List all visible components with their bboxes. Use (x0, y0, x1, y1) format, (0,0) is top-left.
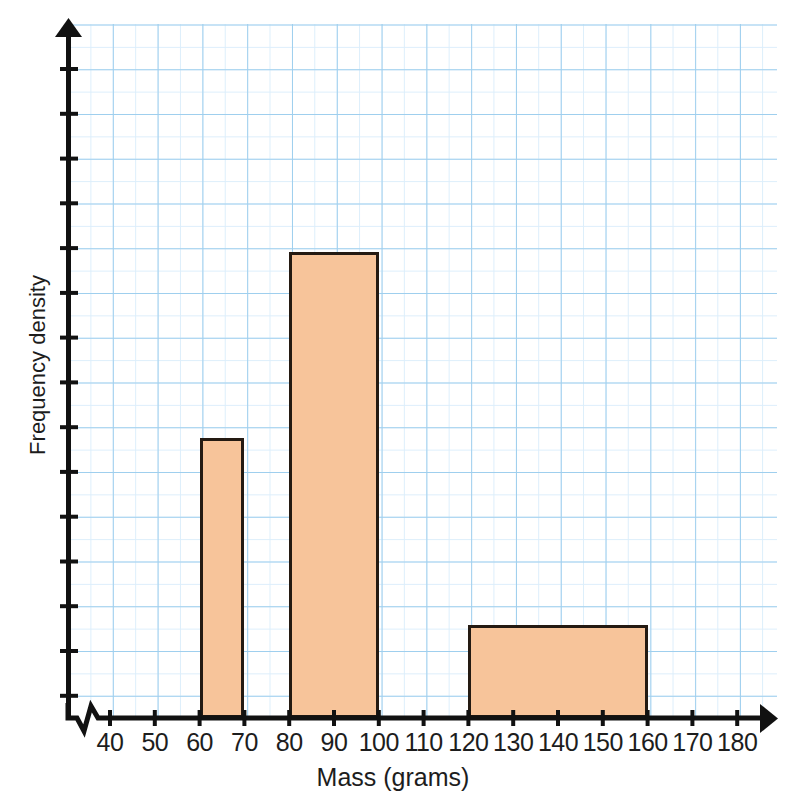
bars-group (0, 0, 786, 804)
histogram-bar (289, 252, 379, 718)
histogram-bar (200, 438, 245, 718)
y-axis-title: Frequency density (25, 275, 51, 455)
histogram-bar (468, 625, 647, 718)
x-axis-title: Mass (grams) (0, 763, 786, 792)
histogram-figure: 405060708090100110120130140150160170180 … (0, 0, 786, 804)
x-tick-label: 180 (707, 728, 767, 757)
